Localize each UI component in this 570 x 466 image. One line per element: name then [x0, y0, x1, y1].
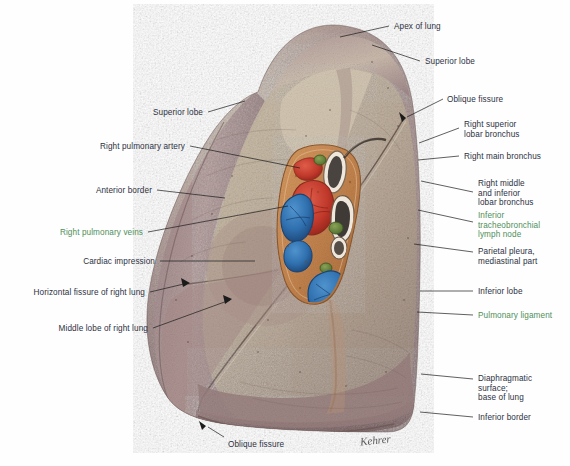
label-superior-lobe-left: Superior lobe	[153, 108, 203, 118]
label-oblique-fissure-bottom: Oblique fissure	[228, 440, 284, 450]
label-middle-lobe-of-right-lung: Middle lobe of right lung	[59, 324, 148, 334]
label-right-superior-lobar-bronchus: Right superior lobar bronchus	[464, 120, 520, 139]
label-diaphragmatic-surface: Diaphragmatic surface; base of lung	[478, 374, 532, 403]
leader-right-main-bronchus	[418, 156, 459, 160]
leader-inferior-tracheobronchial-lymph-node	[418, 210, 473, 222]
figure-canvas: Apex of lungSuperior lobeOblique fissure…	[0, 0, 570, 466]
inferior-tracheobronchial-lymph-node-shape	[329, 222, 343, 234]
leader-diaphragmatic-surface	[421, 374, 473, 379]
leader-pulmonary-ligament	[417, 312, 473, 315]
label-oblique-fissure-top: Oblique fissure	[447, 95, 503, 105]
label-inferior-lobe-right: Inferior lobe	[478, 287, 523, 297]
label-parietal-pleura-mediastinal-part: Parietal pleura, mediastinal part	[478, 247, 537, 266]
label-inferior-border: Inferior border	[478, 413, 531, 423]
leader-right-middle-inferior-bronchus	[421, 181, 473, 192]
label-right-pulmonary-veins: Right pulmonary veins	[60, 228, 143, 238]
label-apex-of-lung: Apex of lung	[394, 22, 441, 32]
label-right-middle-and-inferior-lobar-bronchus: Right middle and inferior lobar bronchus	[478, 179, 534, 208]
label-right-main-bronchus: Right main bronchus	[464, 152, 541, 162]
label-right-pulmonary-artery: Right pulmonary artery	[100, 142, 185, 152]
leader-inferior-border	[420, 412, 473, 417]
label-cardiac-impression: Cardiac impression	[83, 257, 155, 267]
label-horizontal-fissure-of-right-lung: Horizontal fissure of right lung	[33, 288, 145, 298]
lymph-node-superior	[314, 155, 326, 165]
label-pulmonary-ligament: Pulmonary ligament	[478, 311, 552, 321]
right-middle-inferior-lobar-bronchus-lumen	[334, 241, 344, 255]
leader-right-superior-lobar-bronchus	[419, 128, 459, 143]
leader-parietal-pleura	[414, 244, 473, 252]
leader-oblique-fissure-bottom	[208, 427, 224, 437]
label-inferior-tracheobronchial-lymph-node: Inferior tracheobronchial lymph node	[478, 211, 540, 240]
label-superior-lobe-right: Superior lobe	[425, 57, 475, 67]
label-anterior-border: Anterior border	[96, 186, 152, 196]
